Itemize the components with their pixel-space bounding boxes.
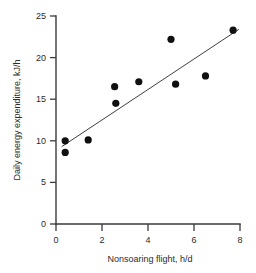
data-point <box>202 72 209 79</box>
data-point <box>167 36 174 43</box>
data-point <box>111 83 118 90</box>
y-tick-label-15: 15 <box>36 94 46 104</box>
trend-line <box>62 29 239 146</box>
y-tick-label-0: 0 <box>41 219 46 229</box>
data-point <box>135 78 142 85</box>
y-axis-ticks <box>50 16 56 224</box>
x-axis-ticks <box>56 224 240 231</box>
data-point <box>230 27 237 34</box>
y-tick-label-10: 10 <box>36 136 46 146</box>
data-points-group <box>62 27 237 157</box>
y-tick-label-5: 5 <box>41 177 46 187</box>
x-tick-label-8: 8 <box>237 235 242 245</box>
data-point <box>62 149 69 156</box>
y-axis-title: Daily energy expenditure, kJ/h <box>12 59 22 180</box>
plot-canvas: 0 5 10 15 20 25 0 2 4 6 8 Nonsoaring fli… <box>0 0 256 273</box>
x-tick-label-2: 2 <box>99 235 104 245</box>
x-axis-title: Nonsoaring flight, h/d <box>107 254 192 264</box>
data-point <box>112 100 119 107</box>
data-point <box>172 81 179 88</box>
data-point <box>85 136 92 143</box>
x-tick-label-4: 4 <box>145 235 150 245</box>
y-tick-label-20: 20 <box>36 53 46 63</box>
x-tick-label-6: 6 <box>191 235 196 245</box>
scatter-chart-figure: 0 5 10 15 20 25 0 2 4 6 8 Nonsoaring fli… <box>0 0 256 273</box>
data-point <box>62 137 69 144</box>
y-tick-label-25: 25 <box>36 11 46 21</box>
x-tick-label-0: 0 <box>53 235 58 245</box>
